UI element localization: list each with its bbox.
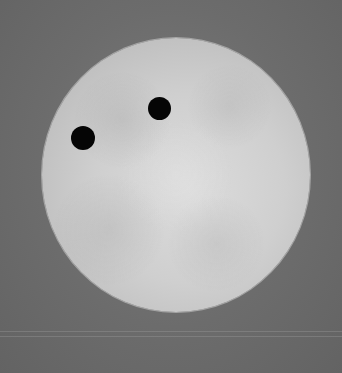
astronomical-image [0,0,342,373]
sensor-streak [0,336,342,337]
sensor-streak [0,331,342,332]
granulation-texture [42,38,310,312]
solar-disk [42,38,310,312]
transit-spot-right [148,97,171,120]
transit-spot-left [71,126,95,150]
